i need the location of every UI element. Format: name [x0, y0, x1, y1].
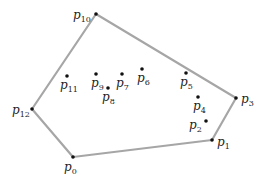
- point-p4-label: p4: [193, 99, 206, 115]
- diagram-canvas: p0p1p2p3p4p5p6p7p8p9p10p11p12: [0, 0, 266, 179]
- point-p1-label: p1: [217, 135, 230, 151]
- point-p0-marker: [71, 155, 75, 159]
- point-p3-marker: [234, 96, 238, 100]
- point-p8-label: p8: [102, 90, 115, 106]
- point-p2-marker: [204, 119, 208, 123]
- point-p5-label: p5: [180, 75, 193, 91]
- point-p3-label: p3: [241, 92, 254, 108]
- point-p6-label: p6: [137, 71, 150, 87]
- point-p12-marker: [30, 107, 34, 111]
- point-p12-label: p12: [12, 103, 30, 119]
- point-labels: p0p1p2p3p4p5p6p7p8p9p10p11p12: [12, 8, 254, 176]
- point-p2-label: p2: [189, 118, 202, 134]
- point-p1-marker: [210, 138, 214, 142]
- point-p11-label: p11: [60, 78, 78, 94]
- convex-hull-diagram: p0p1p2p3p4p5p6p7p8p9p10p11p12: [0, 0, 266, 179]
- point-p9-label: p9: [91, 76, 104, 92]
- point-p10-marker: [94, 12, 98, 16]
- point-p7-label: p7: [116, 76, 129, 92]
- point-p0-label: p0: [64, 160, 77, 176]
- point-p10-label: p10: [73, 8, 91, 24]
